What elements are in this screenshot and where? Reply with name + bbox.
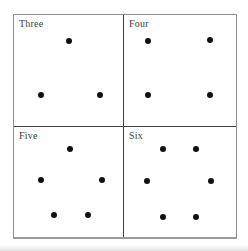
dot <box>67 146 73 152</box>
dot <box>145 38 151 44</box>
panel-six: Six <box>124 127 236 237</box>
dot <box>208 178 214 184</box>
dot <box>66 38 72 44</box>
figure-page: Three Four Five Six <box>0 0 248 251</box>
dot <box>38 92 44 98</box>
dot <box>144 178 150 184</box>
panel-three: Three <box>14 15 124 127</box>
dot <box>99 177 105 183</box>
dot <box>160 214 166 220</box>
dot <box>85 212 91 218</box>
dot <box>207 92 213 98</box>
panel-four: Four <box>124 15 236 127</box>
dot <box>38 177 44 183</box>
panel-three-dots <box>14 15 123 126</box>
dot <box>207 37 213 43</box>
page-scan-shadow <box>0 245 248 251</box>
dot <box>193 214 199 220</box>
dot <box>160 146 166 152</box>
panel-four-dots <box>124 15 236 126</box>
panel-five: Five <box>14 127 124 237</box>
dot <box>51 212 57 218</box>
panel-five-dots <box>14 127 123 237</box>
panel-six-dots <box>124 127 236 237</box>
dot-pattern-grid: Three Four Five Six <box>13 14 237 239</box>
dot <box>145 92 151 98</box>
dot <box>193 146 199 152</box>
dot <box>97 92 103 98</box>
